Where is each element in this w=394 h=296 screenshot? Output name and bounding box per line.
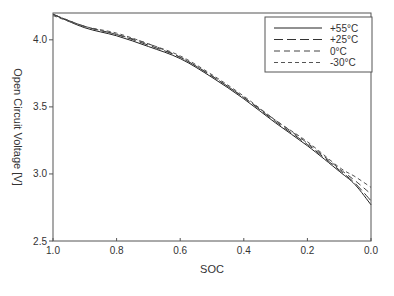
y-tick-label: 3.0 [33, 168, 47, 179]
y-axis-title: Open Circuit Voltage [V] [12, 68, 24, 185]
legend: +55°C+25°C0°C-30°C [265, 17, 372, 72]
y-tick-label: 3.5 [33, 101, 47, 112]
legend-label: +55°C [330, 23, 358, 34]
x-tick-label: 0.2 [300, 245, 314, 256]
x-tick-label: 0.6 [173, 245, 187, 256]
x-tick-label: 0.4 [237, 245, 251, 256]
legend-label: 0°C [330, 46, 347, 57]
y-tick-label: 2.5 [33, 236, 47, 247]
x-tick-label: 0.0 [364, 245, 378, 256]
x-axis-title: SOC [200, 263, 224, 275]
legend-label: +25°C [330, 34, 358, 45]
y-tick-label: 4.0 [33, 34, 47, 45]
ocv-chart: 1.00.80.60.40.20.02.53.03.54.0 SOC Open … [0, 0, 394, 296]
legend-label: -30°C [330, 57, 356, 68]
x-tick-label: 1.0 [46, 245, 60, 256]
x-tick-label: 0.8 [110, 245, 124, 256]
